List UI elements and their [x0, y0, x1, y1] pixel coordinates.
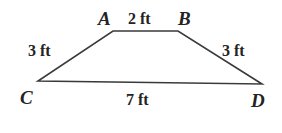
geometry-figure: A B C D 2 ft 3 ft 3 ft 7 ft [0, 0, 282, 133]
side-measure-bd: 3 ft [222, 43, 245, 59]
side-measure-ca: 3 ft [28, 43, 51, 59]
vertex-label-c: C [20, 88, 33, 107]
vertex-label-d: D [251, 91, 265, 110]
side-measure-cd: 7 ft [126, 92, 149, 108]
side-measure-ab: 2 ft [128, 11, 151, 27]
vertex-label-a: A [98, 9, 111, 28]
vertex-label-b: B [178, 9, 191, 28]
